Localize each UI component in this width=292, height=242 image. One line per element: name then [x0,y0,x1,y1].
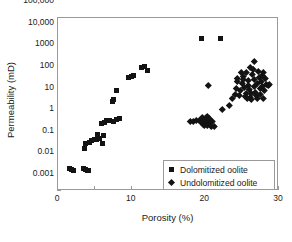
x-axis-title: Porosity (%) [57,212,278,223]
data-point-square [199,36,204,41]
data-point-square [100,141,105,146]
data-point-square [101,133,106,138]
x-tick-mark [278,186,279,190]
data-point-square [86,168,91,173]
data-point-square [117,116,122,121]
permeability-porosity-scatter-chart: Permeability (mD) 0.0010.010.11101001000… [0,0,292,242]
x-tick-label: 0 [42,193,72,203]
chart-legend: Dolomitized oolite Undolomitized oolite [163,160,275,190]
y-tick-label: 10,000 [6,18,54,26]
square-marker-icon [169,167,174,172]
diamond-marker-icon [168,179,175,186]
legend-item-undolomitized: Undolomitized oolite [169,176,257,189]
y-tick-mark [57,190,61,191]
x-tick-mark [131,186,132,190]
data-point-square [71,168,76,173]
x-tick-label: 10 [116,193,146,203]
data-point-square [131,73,136,78]
data-point-square [114,88,119,93]
legend-item-dolomitized: Dolomitized oolite [169,163,248,176]
x-tick-label: 20 [189,193,219,203]
data-point-square [145,68,150,73]
y-tick-label: 1 [6,104,54,112]
legend-label: Undolomitized oolite [180,178,257,188]
x-tick-mark [57,186,58,190]
data-point-diamond [226,102,232,108]
data-point-diamond [266,81,272,87]
data-point-diamond [260,95,266,101]
data-point-diamond [251,58,257,64]
data-point-square [82,146,87,151]
legend-label: Dolomitized oolite [180,165,248,175]
y-tick-label: 10 [6,83,54,91]
y-tick-label: 0.1 [6,126,54,134]
x-tick-label: 30 [263,193,292,203]
y-tick-label: 100,000 [6,0,54,4]
data-point-square [218,36,223,41]
x-minor-tick-mark [94,186,95,189]
data-point-diamond [205,82,211,88]
y-tick-label: 1000 [6,39,54,47]
y-tick-label: 100 [6,61,54,69]
data-point-square [111,97,116,102]
y-tick-label: 0.01 [6,147,54,155]
y-tick-label: 0.001 [6,169,54,177]
data-point-diamond [219,106,225,112]
y-axis-tick-labels: 0.0010.010.1110100100010,000100,000 [4,0,54,242]
